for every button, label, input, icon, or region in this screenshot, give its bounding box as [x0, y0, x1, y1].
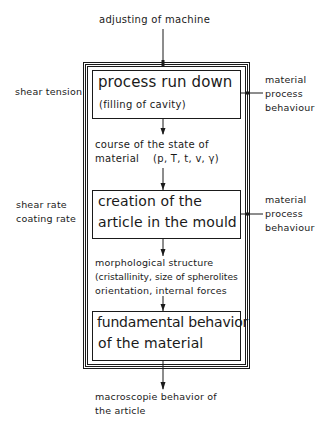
stage1-right-tip	[245, 92, 250, 95]
stage3-title-line2: of the material	[98, 334, 203, 353]
stage1-right-label-2: process	[265, 87, 303, 101]
stage1-right-label-3: behaviour	[265, 101, 315, 115]
transition2-line2: (cristallinity, size of spherolites	[95, 270, 238, 284]
stage1-title: process run down	[98, 73, 232, 92]
stage2-left-label-2: coating rate	[16, 212, 76, 226]
stage2-left-label-1: shear rate	[16, 198, 67, 212]
stage3-title-line1: fundamental behavior	[97, 313, 248, 332]
arrow-1-head	[161, 128, 166, 135]
transition2-line3: orientation, internal forces	[95, 284, 227, 298]
stage2-title-line2: article in the mould	[98, 213, 237, 232]
stage1-right-label-1: material	[265, 73, 306, 87]
stage2-right-label-1: material	[265, 193, 306, 207]
output-label-line1: macroscopie behavior of	[95, 390, 217, 404]
output-arrow-head	[161, 382, 166, 390]
transition1-line1: course of the state of	[95, 138, 209, 152]
input-label: adjusting of machine	[99, 13, 210, 27]
input-arrow-tip	[162, 60, 165, 66]
stage2-title-line1: creation of the	[98, 192, 202, 211]
transition1-line2: material (p, T, t, v, γ)	[95, 152, 219, 166]
stage1-left-label: shear tension	[15, 85, 82, 99]
stage2-right-tip	[245, 213, 250, 216]
arrow-2-head	[161, 183, 166, 190]
stage2-right-label-3: behaviour	[265, 221, 315, 235]
stage2-right-label-2: process	[265, 207, 303, 221]
arrow-4-head	[161, 304, 166, 311]
transition2-line1: morphological structure	[95, 256, 213, 270]
arrow-3-head	[161, 249, 166, 256]
output-label-line2: the article	[95, 404, 146, 418]
stage1-subtitle: (filling of cavity)	[99, 98, 186, 112]
